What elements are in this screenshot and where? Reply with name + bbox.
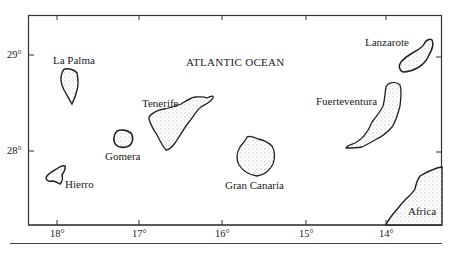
ocean-label: ATLANTIC OCEAN	[186, 57, 285, 68]
longitude-label-18: 18°	[50, 229, 65, 240]
hierro-island	[46, 166, 65, 184]
latitude-label-28: 28°	[7, 146, 22, 157]
gomera-island	[114, 130, 133, 147]
latitude-label-29: 29°	[7, 50, 22, 61]
la-palma-island	[61, 69, 78, 104]
longitude-label-15: 15°	[299, 229, 314, 240]
longitude-label-16: 16°	[215, 229, 230, 240]
bottom-ticks	[57, 220, 386, 225]
continent-label-africa: Africa	[408, 206, 436, 217]
fuerteventura-island	[346, 83, 401, 148]
longitude-label-17: 17°	[132, 229, 147, 240]
island-label-tenerife: Tenerife	[142, 98, 178, 109]
island-label-lanzarote: Lanzarote	[365, 37, 409, 48]
gran-canaria-island	[237, 136, 274, 176]
island-label-la-palma: La Palma	[53, 55, 95, 66]
island-label-gran-canaria: Gran Canaria	[225, 180, 284, 191]
caption-rule	[10, 243, 442, 244]
island-label-gomera: Gomera	[105, 151, 140, 162]
island-label-fuerteventura: Fuerteventura	[316, 96, 377, 107]
island-label-hierro: Hierro	[65, 179, 94, 190]
longitude-label-14: 14°	[379, 229, 394, 240]
